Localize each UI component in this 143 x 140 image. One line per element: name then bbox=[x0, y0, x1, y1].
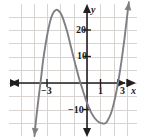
y-tick-label-20: 20 bbox=[76, 25, 86, 35]
y-axis-label: y bbox=[91, 5, 95, 15]
x-tick-label-1: 1 bbox=[98, 86, 103, 96]
y-tick-label-10: 10 bbox=[77, 51, 87, 61]
y-axis-up-arrow bbox=[83, 4, 91, 13]
x-axis-left-arrow bbox=[10, 79, 19, 87]
x-tick-label-neg3: −3 bbox=[41, 86, 52, 96]
graph-figure: 20 10 −10 −3 1 3 y x bbox=[0, 0, 143, 140]
x-tick-label-3: 3 bbox=[120, 86, 125, 96]
cubic-curve bbox=[34, 2, 128, 136]
axes-and-curve bbox=[0, 0, 143, 140]
x-axis-label: x bbox=[131, 86, 136, 96]
y-axis-down-arrow bbox=[83, 128, 91, 137]
y-tick-label-neg10: −10 bbox=[68, 105, 84, 115]
